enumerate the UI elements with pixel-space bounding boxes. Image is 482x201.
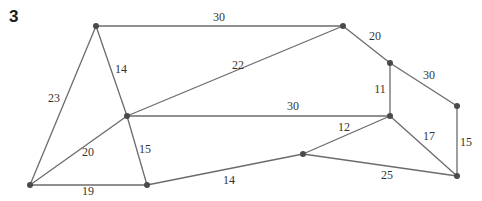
- node-g: [300, 151, 306, 157]
- edge-g-j: [303, 154, 457, 176]
- node-i: [144, 182, 150, 188]
- edge-weight-label-b-c: 20: [369, 29, 381, 43]
- edge-weight-label-e-f: 30: [287, 99, 299, 113]
- edge-weight-label-h-i: 19: [82, 184, 94, 198]
- edge-weight-label-c-d: 30: [423, 68, 435, 82]
- edge-weight-label-e-b: 22: [232, 58, 244, 72]
- edge-f-j: [390, 116, 457, 176]
- weighted-graph: 30203014232230112015191412171525: [0, 0, 482, 201]
- edge-weight-label-g-j: 25: [381, 168, 393, 182]
- edge-b-c: [343, 26, 390, 63]
- node-c: [387, 60, 393, 66]
- edge-weight-label-c-f: 11: [374, 82, 386, 96]
- edge-weight-label-d-j: 15: [460, 135, 472, 149]
- edge-weight-label-a-b: 30: [213, 10, 225, 24]
- edge-weight-label-e-i: 15: [139, 142, 151, 156]
- edge-weight-label-a-e: 14: [115, 62, 127, 76]
- node-a: [93, 23, 99, 29]
- edge-weight-label-e-h: 20: [82, 145, 94, 159]
- node-b: [340, 23, 346, 29]
- node-j: [454, 173, 460, 179]
- edge-weight-label-a-h: 23: [48, 91, 60, 105]
- node-e: [124, 113, 130, 119]
- node-f: [387, 113, 393, 119]
- edge-weight-label-i-g: 14: [223, 173, 235, 187]
- node-d: [454, 103, 460, 109]
- node-h: [27, 182, 33, 188]
- edge-weight-label-g-f: 12: [338, 120, 350, 134]
- edge-weight-label-f-j: 17: [423, 129, 435, 143]
